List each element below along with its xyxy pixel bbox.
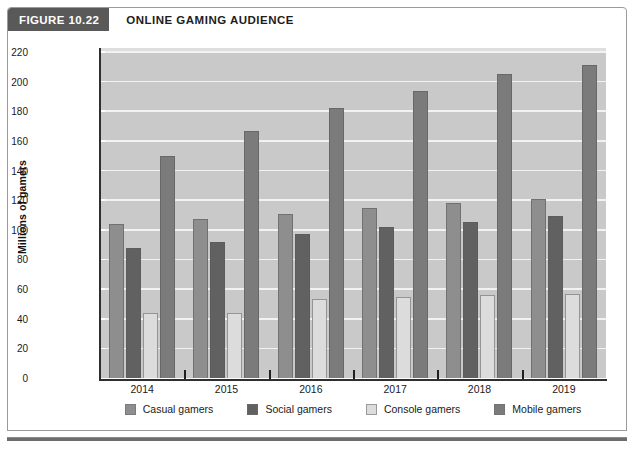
- x-axis-label-2016: 2016: [276, 383, 346, 395]
- legend-swatch-icon: [247, 404, 258, 415]
- x-axis-line: [99, 379, 607, 381]
- legend-label: Social gamers: [265, 403, 332, 415]
- bar-casual-gamers-2016[interactable]: [278, 214, 293, 378]
- bar-console-gamers-2015[interactable]: [227, 313, 242, 378]
- bar-social-gamers-2015[interactable]: [210, 242, 225, 378]
- legend-item-social-gamers[interactable]: Social gamers: [247, 403, 332, 415]
- y-axis-tick-label: 220: [0, 47, 28, 58]
- x-axis-label-2018: 2018: [445, 383, 515, 395]
- bar-casual-gamers-2019[interactable]: [531, 199, 546, 378]
- y-axis-tick-label: 40: [0, 313, 28, 324]
- x-axis-label-2015: 2015: [192, 383, 262, 395]
- legend-label: Mobile gamers: [512, 403, 581, 415]
- bar-group-2014: [100, 48, 184, 378]
- y-axis-tick-label: 180: [0, 106, 28, 117]
- legend-swatch-icon: [125, 404, 136, 415]
- bar-social-gamers-2016[interactable]: [295, 234, 310, 378]
- y-axis-tick-label: 160: [0, 135, 28, 146]
- bar-group-2015: [184, 48, 268, 378]
- bar-group-2016: [269, 48, 353, 378]
- bar-chart: Millions of gamers 020406080100120140160…: [8, 31, 628, 431]
- figure-number-tag: FIGURE 10.22: [8, 8, 109, 31]
- legend-item-mobile-gamers[interactable]: Mobile gamers: [494, 403, 581, 415]
- x-axis-label-2014: 2014: [107, 383, 177, 395]
- y-axis-tick-label: 120: [0, 195, 28, 206]
- bar-console-gamers-2018[interactable]: [480, 295, 495, 378]
- bar-mobile-gamers-2018[interactable]: [497, 74, 512, 378]
- x-axis-tick-mark: [184, 370, 186, 379]
- y-axis-line: [99, 48, 101, 381]
- figure-header: FIGURE 10.22 ONLINE GAMING AUDIENCE: [7, 7, 627, 32]
- y-axis-tick-label: 140: [0, 165, 28, 176]
- bar-mobile-gamers-2016[interactable]: [329, 108, 344, 378]
- x-axis-label-2017: 2017: [360, 383, 430, 395]
- bar-mobile-gamers-2019[interactable]: [582, 65, 597, 378]
- bar-group-2018: [437, 48, 521, 378]
- y-axis-tick-label: 0: [0, 373, 28, 384]
- bar-console-gamers-2014[interactable]: [143, 313, 158, 378]
- bar-social-gamers-2019[interactable]: [548, 216, 563, 378]
- bar-console-gamers-2019[interactable]: [565, 294, 580, 378]
- bar-mobile-gamers-2015[interactable]: [244, 131, 259, 378]
- y-axis-tick-label: 60: [0, 284, 28, 295]
- x-axis-tick-mark: [269, 370, 271, 379]
- bar-group-2017: [353, 48, 437, 378]
- bar-social-gamers-2017[interactable]: [379, 227, 394, 378]
- x-axis-tick-mark: [437, 370, 439, 379]
- y-axis-tick-label: 80: [0, 254, 28, 265]
- figure-title: ONLINE GAMING AUDIENCE: [109, 8, 294, 31]
- legend-label: Console gamers: [384, 403, 460, 415]
- plot-area: [100, 48, 606, 378]
- bar-social-gamers-2018[interactable]: [463, 222, 478, 378]
- y-axis-tick-label: 20: [0, 343, 28, 354]
- legend-item-console-gamers[interactable]: Console gamers: [366, 403, 460, 415]
- bar-casual-gamers-2014[interactable]: [109, 224, 124, 378]
- figure-bottom-rule: [7, 437, 627, 441]
- x-axis-label-2019: 2019: [529, 383, 599, 395]
- bar-console-gamers-2016[interactable]: [312, 299, 327, 378]
- bar-casual-gamers-2015[interactable]: [193, 219, 208, 378]
- bar-casual-gamers-2018[interactable]: [446, 203, 461, 378]
- legend-label: Casual gamers: [143, 403, 214, 415]
- x-axis-tick-mark: [522, 370, 524, 379]
- y-axis-tick-label: 100: [0, 224, 28, 235]
- legend-swatch-icon: [494, 404, 505, 415]
- legend-item-casual-gamers[interactable]: Casual gamers: [125, 403, 214, 415]
- legend-swatch-icon: [366, 404, 377, 415]
- bar-group-2019: [522, 48, 606, 378]
- bar-console-gamers-2017[interactable]: [396, 297, 411, 379]
- figure-container: FIGURE 10.22 ONLINE GAMING AUDIENCE Mill…: [0, 0, 634, 451]
- chart-legend: Casual gamersSocial gamersConsole gamers…: [100, 403, 606, 415]
- bar-mobile-gamers-2014[interactable]: [160, 156, 175, 378]
- bar-mobile-gamers-2017[interactable]: [413, 91, 428, 378]
- bar-social-gamers-2014[interactable]: [126, 248, 141, 378]
- x-axis-tick-mark: [353, 370, 355, 379]
- bar-casual-gamers-2017[interactable]: [362, 208, 377, 378]
- figure-body: Millions of gamers 020406080100120140160…: [7, 31, 627, 431]
- y-axis-tick-label: 200: [0, 76, 28, 87]
